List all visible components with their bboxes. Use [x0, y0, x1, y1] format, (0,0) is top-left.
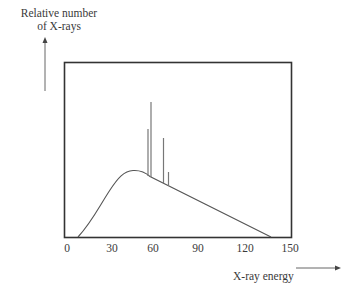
- x-tick-0: 0: [64, 242, 70, 254]
- x-axis-arrow-icon: [296, 266, 341, 271]
- x-axis-label: X-ray energy: [233, 270, 294, 283]
- characteristic-lines: [148, 102, 169, 186]
- plot-frame: [65, 63, 292, 238]
- x-tick-150: 150: [281, 242, 298, 254]
- x-tick-90: 90: [192, 242, 204, 254]
- x-tick-60: 60: [147, 242, 159, 254]
- x-tick-120: 120: [236, 242, 253, 254]
- continuous-spectrum-curve: [78, 170, 271, 237]
- y-axis-arrow-icon: [43, 37, 48, 91]
- chart-canvas: [0, 0, 351, 304]
- x-tick-30: 30: [106, 242, 118, 254]
